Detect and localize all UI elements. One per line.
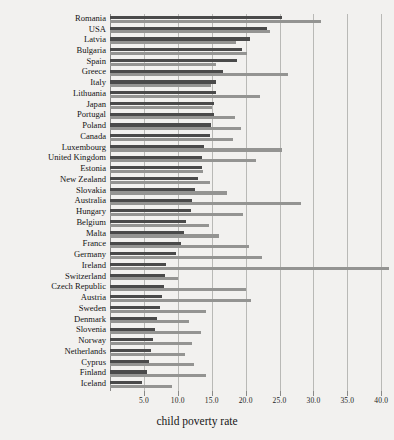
category-label: Finland [80, 368, 106, 377]
category-label: Luxembourg [62, 143, 106, 152]
bar-light [110, 277, 178, 280]
x-axis-tick-label: 5.0 [139, 396, 149, 405]
category-label: Sweden [79, 304, 106, 313]
category-label: Poland [82, 121, 106, 130]
bar-light [110, 256, 262, 259]
bar-light [110, 191, 227, 194]
bar-light [110, 159, 256, 162]
category-label: Ireland [82, 261, 106, 270]
bar-light [110, 127, 241, 130]
x-axis-tick-label: 20.0 [239, 396, 253, 405]
gridline [347, 14, 348, 391]
bar-light [110, 181, 210, 184]
category-label: Lithuania [73, 89, 106, 98]
bar-light [110, 148, 282, 151]
bar-light [110, 234, 219, 237]
category-label: Spain [86, 57, 106, 66]
category-label: France [83, 239, 106, 248]
bar-light [110, 213, 243, 216]
x-axis-tick-label: 15.0 [205, 396, 219, 405]
bar-light [110, 331, 201, 334]
category-label: New Zealand [60, 175, 106, 184]
bar-light [110, 52, 247, 55]
category-label: Australia [74, 196, 106, 205]
bar-light [110, 30, 270, 33]
category-label: Germany [74, 250, 106, 259]
bar-light [110, 342, 192, 345]
gridline [313, 14, 314, 391]
category-label: Cyprus [81, 358, 106, 367]
x-axis-tick-label: 35.0 [340, 396, 354, 405]
bar-light [110, 310, 206, 313]
bar-light [110, 374, 206, 377]
category-label: United Kingdom [48, 153, 106, 162]
bar-light [110, 224, 209, 227]
bar-light [110, 353, 185, 356]
bar-light [110, 245, 249, 248]
bar-light [110, 170, 203, 173]
category-label: Switzerland [65, 272, 106, 281]
bar-light [110, 95, 260, 98]
category-label: Estonia [80, 164, 106, 173]
bar-light [110, 106, 212, 109]
category-label: Malta [86, 229, 106, 238]
bar-light [110, 299, 251, 302]
x-axis-tick-label: 10.0 [171, 396, 185, 405]
x-axis-tick-label: 30.0 [306, 396, 320, 405]
bar-light [110, 385, 172, 388]
bar-light [110, 320, 189, 323]
bar-light [110, 138, 233, 141]
x-axis-tick-label: 40.0 [374, 396, 388, 405]
category-label: Canada [80, 132, 106, 141]
bar-light [110, 267, 389, 270]
bar-light [110, 63, 216, 66]
x-axis-label: child poverty rate [0, 415, 394, 427]
category-label: Bulgaria [76, 46, 106, 55]
category-label: Slovakia [76, 186, 106, 195]
bar-light [110, 116, 235, 119]
gridline [381, 14, 382, 391]
category-label: Austria [81, 293, 106, 302]
category-label: Japan [86, 100, 106, 109]
category-label: Czech Republic [51, 282, 106, 291]
category-label: Hungary [76, 207, 106, 216]
bar-light [110, 288, 246, 291]
category-label: Iceland [81, 379, 106, 388]
category-label: Portugal [77, 110, 106, 119]
x-axis-tick-label: 25.0 [273, 396, 287, 405]
bar-light [110, 73, 288, 76]
category-label: Greece [82, 67, 106, 76]
bar-light [110, 202, 301, 205]
category-label: Denmark [74, 315, 106, 324]
category-label: Latvia [84, 35, 106, 44]
category-label: Slovenia [76, 325, 106, 334]
child-poverty-rate-chart: 5.010.015.020.025.030.035.040.0 RomaniaU… [0, 0, 394, 440]
bar-light [110, 41, 236, 44]
category-label: Netherlands [64, 347, 106, 356]
category-label: Belgium [76, 218, 106, 227]
category-label: Romania [75, 14, 106, 23]
bar-light [110, 84, 211, 87]
bar-light [110, 363, 194, 366]
category-label: USA [89, 25, 106, 34]
category-label: Norway [78, 336, 106, 345]
category-label: Italy [90, 78, 106, 87]
bar-light [110, 20, 321, 23]
